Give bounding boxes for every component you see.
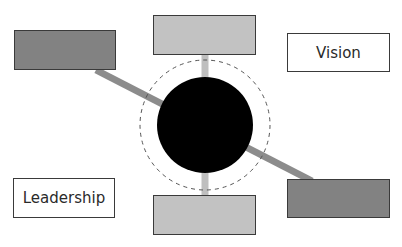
bottom-right-box bbox=[287, 179, 390, 218]
top-left-box bbox=[14, 30, 116, 70]
vision-box: Vision bbox=[287, 33, 390, 72]
bottom-center-box bbox=[153, 195, 256, 235]
vision-label: Vision bbox=[316, 44, 361, 62]
hub-circle bbox=[157, 77, 253, 173]
top-center-box bbox=[153, 15, 256, 55]
leadership-label: Leadership bbox=[23, 189, 105, 207]
leadership-box: Leadership bbox=[13, 178, 115, 218]
